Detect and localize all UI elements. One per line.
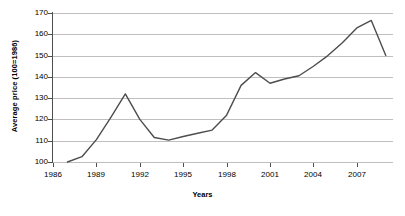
gridline	[53, 162, 393, 163]
x-tick-label: 1986	[33, 170, 73, 179]
plot-area	[53, 13, 393, 162]
x-tick-label: 1989	[76, 170, 116, 179]
x-tick-mark	[357, 163, 358, 167]
x-tick-mark	[96, 163, 97, 167]
y-tick-mark	[48, 141, 52, 142]
y-tick-label: 130	[22, 94, 48, 102]
x-tick-mark	[313, 163, 314, 167]
x-tick-label: 1992	[120, 170, 160, 179]
x-tick-mark	[140, 163, 141, 167]
y-tick-label: 160	[22, 30, 48, 38]
x-tick-mark	[183, 163, 184, 167]
x-tick-mark	[270, 163, 271, 167]
x-tick-label: 1995	[163, 170, 203, 179]
x-tick-mark	[227, 163, 228, 167]
y-tick-mark	[48, 119, 52, 120]
y-tick-label: 150	[22, 52, 48, 60]
y-tick-label: 120	[22, 115, 48, 123]
y-tick-mark	[48, 56, 52, 57]
x-tick-label: 2001	[250, 170, 290, 179]
series-line-average-price	[53, 13, 393, 162]
y-tick-label: 100	[22, 158, 48, 166]
line-chart: Average price (100=1986) 100110120130140…	[0, 0, 405, 216]
x-axis-title: Years	[0, 190, 405, 199]
y-tick-label: 140	[22, 73, 48, 81]
y-tick-mark	[48, 162, 52, 163]
y-tick-mark	[48, 34, 52, 35]
y-tick-mark	[48, 77, 52, 78]
y-tick-label: 170	[22, 9, 48, 17]
x-tick-label: 1998	[207, 170, 247, 179]
x-tick-label: 2007	[337, 170, 377, 179]
y-tick-label: 110	[22, 137, 48, 145]
x-tick-mark	[53, 163, 54, 167]
y-tick-mark	[48, 13, 52, 14]
y-tick-mark	[48, 98, 52, 99]
x-tick-label: 2004	[293, 170, 333, 179]
